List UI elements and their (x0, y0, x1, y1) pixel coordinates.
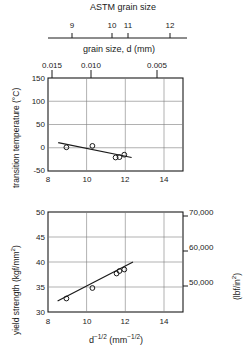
lower-chart-right-ticks (183, 216, 188, 286)
data-point (90, 286, 95, 291)
figure-root: ASTM grain size 9 10 11 12 grain size, d… (0, 0, 246, 356)
lower-chart-hgrid (48, 237, 183, 287)
lower-chart-points (64, 267, 127, 301)
lower-chart-plot (0, 0, 246, 356)
lower-chart-xlabel: d−1/2 (mm−1/2) (89, 336, 143, 345)
lower-chart-fit-line (58, 262, 133, 301)
data-point (122, 267, 127, 272)
